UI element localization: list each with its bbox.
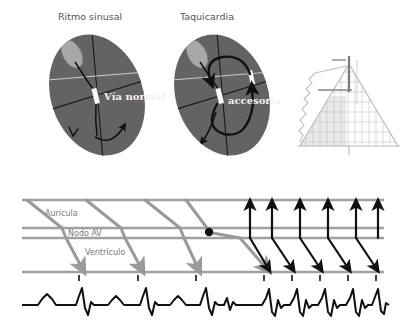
arrhythmia-diagram: Ritmo sinusal Taquicardia Vía normal xyxy=(0,0,406,329)
ladder-label-av-node: Nodo AV xyxy=(68,229,102,238)
reentry-origin-dot xyxy=(205,228,213,236)
figure-canvas: Ritmo sinusal Taquicardia Vía normal xyxy=(0,0,406,329)
ladder-label-ventricle: Ventrículo xyxy=(85,248,125,257)
normal-pathway-label: Vía normal xyxy=(103,91,166,102)
left-panel-title: Ritmo sinusal xyxy=(58,11,122,22)
accessory-pathway-label: accesoria xyxy=(228,95,281,106)
right-panel-title: Taquicardia xyxy=(179,11,234,22)
